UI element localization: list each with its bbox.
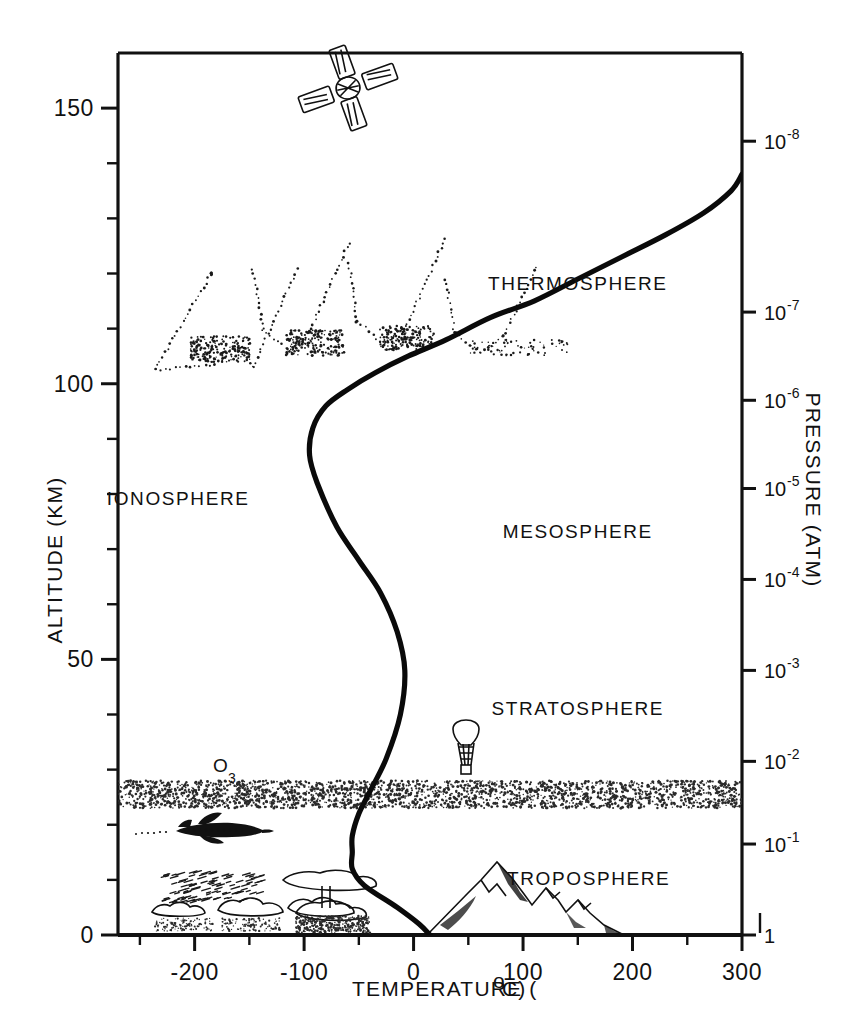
chart-canvas: 050100150 110-110-210-310-410-510-610-71… bbox=[0, 0, 858, 1012]
svg-text:-4: -4 bbox=[787, 564, 800, 580]
pressure-axis-title: PRESSURE (ATM) bbox=[802, 393, 825, 588]
temperature-axis-title-unit: C) bbox=[502, 977, 527, 1000]
layer-label-ionosphere: IONOSPHERE bbox=[107, 488, 250, 509]
layer-label-troposphere: TROPOSPHERE bbox=[507, 868, 670, 889]
svg-text:-2: -2 bbox=[787, 746, 800, 762]
layer-label-mesosphere: MESOSPHERE bbox=[503, 521, 653, 542]
temperature-tick-label: 200 bbox=[612, 959, 652, 985]
svg-text:10: 10 bbox=[764, 660, 786, 682]
svg-text:-7: -7 bbox=[787, 297, 800, 313]
altitude-tick-label: 50 bbox=[67, 646, 94, 672]
altitude-axis-title: ALTITUDE (KM) bbox=[43, 477, 66, 644]
temperature-tick-label: 300 bbox=[722, 959, 762, 985]
svg-text:10: 10 bbox=[764, 834, 786, 856]
svg-text:-3: -3 bbox=[787, 655, 800, 671]
svg-text:10: 10 bbox=[764, 390, 786, 412]
svg-text:-5: -5 bbox=[787, 473, 800, 489]
temperature-tick-label: -200 bbox=[170, 959, 218, 985]
svg-text:10: 10 bbox=[764, 478, 786, 500]
svg-text:10: 10 bbox=[764, 569, 786, 591]
altitude-tick-label: 0 bbox=[81, 922, 94, 948]
svg-text:-6: -6 bbox=[787, 385, 800, 401]
svg-text:10: 10 bbox=[764, 131, 786, 153]
svg-text:-1: -1 bbox=[787, 829, 800, 845]
altitude-tick-label: 100 bbox=[54, 371, 94, 397]
temperature-tick-label: -100 bbox=[280, 959, 328, 985]
layer-label-stratosphere: STRATOSPHERE bbox=[491, 698, 664, 719]
svg-text:10: 10 bbox=[764, 751, 786, 773]
svg-text:-8: -8 bbox=[787, 126, 800, 142]
svg-text:10: 10 bbox=[764, 302, 786, 324]
atmosphere-profile-figure: 050100150 110-110-210-310-410-510-610-71… bbox=[0, 0, 858, 1012]
svg-text:1: 1 bbox=[764, 925, 775, 947]
altitude-tick-label: 150 bbox=[54, 95, 94, 121]
layer-label-thermosphere: THERMOSPHERE bbox=[488, 273, 668, 294]
pressure-tick-label: 1 bbox=[764, 925, 775, 947]
ozone-label-subscript: 3 bbox=[228, 770, 236, 786]
ozone-label-main: O bbox=[213, 755, 228, 776]
